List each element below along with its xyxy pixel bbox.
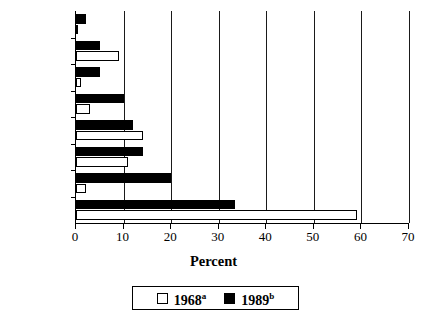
bar-1989	[76, 173, 171, 183]
bar-group	[76, 117, 409, 144]
bar-1989	[76, 41, 100, 51]
x-axis-tick-label-30: 30	[198, 230, 238, 244]
bar-1968	[76, 210, 357, 220]
x-axis: 010203040506070	[75, 224, 408, 252]
x-axis-title: Percent	[0, 253, 427, 270]
y-axis-tick	[71, 38, 76, 39]
bar-1968	[76, 78, 81, 88]
legend-label-1989: 1989b	[241, 289, 274, 308]
legend-swatch-black-square	[224, 293, 235, 304]
bar-chart: FriendsMoneyFamilyHealth 010203040506070…	[0, 0, 427, 329]
y-axis-tick	[71, 91, 76, 92]
plot-area	[75, 11, 409, 224]
bar-1968	[76, 131, 143, 141]
x-axis-tick-label-10: 10	[103, 230, 143, 244]
x-axis-tick-label-40: 40	[245, 230, 285, 244]
legend-entry-1968: 1968a	[157, 289, 207, 308]
legend-label-1968: 1968a	[174, 289, 207, 308]
x-axis-tick-label-0: 0	[55, 230, 95, 244]
y-axis-tick	[71, 64, 76, 65]
bar-1989	[76, 200, 235, 210]
bar-group	[76, 91, 409, 118]
y-axis-tick	[71, 170, 76, 171]
y-axis-tick	[71, 117, 76, 118]
bar-1968	[76, 184, 86, 194]
bar-group	[76, 144, 409, 171]
bar-group	[76, 64, 409, 91]
bar-group	[76, 11, 409, 38]
bar-1989	[76, 120, 133, 130]
x-axis-tick-label-60: 60	[340, 230, 380, 244]
y-axis-tick	[71, 144, 76, 145]
bar-1989	[76, 147, 143, 157]
x-axis-tick-label-70: 70	[388, 230, 427, 244]
legend-swatch-white-square	[157, 293, 168, 304]
bar-group	[76, 170, 409, 197]
bar-1968	[76, 51, 119, 61]
chart-legend: 1968a 1989b	[132, 286, 299, 310]
bar-1968	[76, 157, 128, 167]
bar-1968	[76, 25, 78, 35]
y-axis-tick	[71, 197, 76, 198]
bar-1968	[76, 104, 90, 114]
x-axis-tick-label-50: 50	[293, 230, 333, 244]
bar-group	[76, 197, 409, 224]
gridline-70	[409, 11, 410, 223]
bar-1989	[76, 94, 124, 104]
legend-entry-1989: 1989b	[224, 289, 274, 308]
bar-group	[76, 38, 409, 65]
bar-1989	[76, 14, 86, 24]
x-axis-tick-label-20: 20	[150, 230, 190, 244]
bar-1989	[76, 67, 100, 77]
